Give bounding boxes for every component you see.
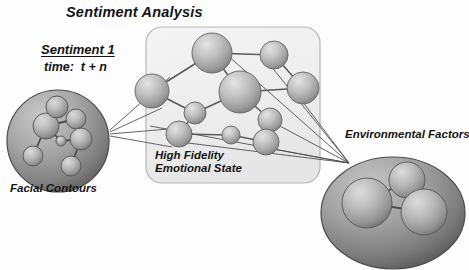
node-fc7[interactable] — [61, 156, 81, 176]
node-fc4[interactable] — [70, 128, 92, 150]
node-hf9[interactable] — [258, 108, 282, 132]
node-ef3[interactable] — [401, 189, 447, 235]
time-label: time: t + n — [44, 60, 107, 74]
node-ef1[interactable] — [342, 178, 392, 228]
node-hf10[interactable] — [253, 129, 279, 155]
node-fc3[interactable] — [66, 109, 86, 129]
node-hf7[interactable] — [166, 121, 192, 147]
group-facial-contours[interactable] — [7, 90, 109, 192]
node-fc2[interactable] — [46, 96, 68, 118]
group-environmental-factors[interactable] — [321, 157, 465, 269]
sentiment-heading-label: Sentiment 1 — [41, 43, 115, 58]
node-hf4[interactable] — [219, 71, 261, 113]
node-fc5[interactable] — [56, 136, 66, 146]
high-fidelity-line-1: High Fidelity — [155, 149, 224, 161]
facial-contours-label: Facial Contours — [10, 182, 97, 195]
high-fidelity-emotional-state-label: High FidelityEmotional State — [155, 149, 242, 175]
node-hf1[interactable] — [192, 33, 232, 73]
page-title: Sentiment Analysis — [66, 4, 203, 21]
node-hf2[interactable] — [260, 41, 288, 69]
diagram-canvas: Sentiment Analysis Sentiment 1 time: t +… — [0, 0, 469, 270]
node-hf5[interactable] — [287, 72, 319, 104]
node-hf6[interactable] — [184, 102, 206, 124]
node-fc6[interactable] — [23, 146, 43, 166]
high-fidelity-line-2: Emotional State — [155, 162, 242, 174]
node-hf8[interactable] — [222, 126, 240, 144]
environmental-factors-label: Environmental Factors — [345, 128, 469, 141]
node-hf3[interactable] — [135, 74, 169, 108]
